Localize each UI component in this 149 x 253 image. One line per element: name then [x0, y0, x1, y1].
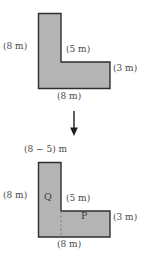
top-left-dimension-label: (8 m): [3, 41, 27, 51]
bottom-top-dimension-label: (8 − 5) m: [24, 144, 67, 154]
top-bottom-dimension-label: (8 m): [57, 91, 81, 101]
bottom-bottom-dimension-label: (8 m): [57, 239, 81, 249]
bottom-inner-dimension-label: (5 m): [66, 193, 90, 203]
bottom-left-dimension-label: (8 m): [3, 190, 27, 200]
down-arrow-icon: [70, 111, 78, 136]
top-right-dimension-label: (3 m): [113, 63, 137, 73]
region-label-p: P: [81, 211, 87, 221]
top-inner-dimension-label: (5 m): [66, 44, 90, 54]
bottom-right-dimension-label: (3 m): [113, 212, 137, 222]
diagram-canvas: (8 m) (5 m) (3 m) (8 m) (8 − 5) m (8 m) …: [0, 0, 149, 253]
region-label-q: Q: [44, 192, 52, 202]
